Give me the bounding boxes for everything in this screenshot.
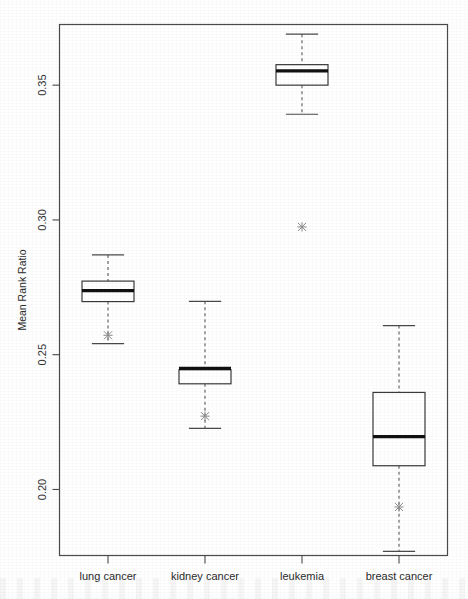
y-tick-label: 0.20 <box>36 479 48 500</box>
outlier-marker <box>200 412 209 421</box>
box-iqr <box>373 392 425 465</box>
y-tick-label: 0.25 <box>36 344 48 365</box>
outlier-marker <box>297 222 306 231</box>
y-tick-label: 0.35 <box>36 74 48 95</box>
x-category-label: lung cancer <box>80 570 137 582</box>
outlier-marker <box>394 502 403 511</box>
x-category-label: leukemia <box>280 570 325 582</box>
figure-background <box>0 0 468 599</box>
boxplot-svg: 0.200.250.300.35 Mean Rank Ratio lung ca… <box>0 0 468 599</box>
boxplot-figure: 0.200.250.300.35 Mean Rank Ratio lung ca… <box>0 0 468 599</box>
x-category-label: kidney cancer <box>171 570 239 582</box>
y-axis-title: Mean Rank Ratio <box>16 249 28 330</box>
x-category-label: breast cancer <box>366 570 433 582</box>
box-iqr <box>179 370 231 384</box>
y-tick-label: 0.30 <box>36 209 48 230</box>
box-iqr <box>276 65 328 85</box>
outlier-marker <box>103 331 112 340</box>
